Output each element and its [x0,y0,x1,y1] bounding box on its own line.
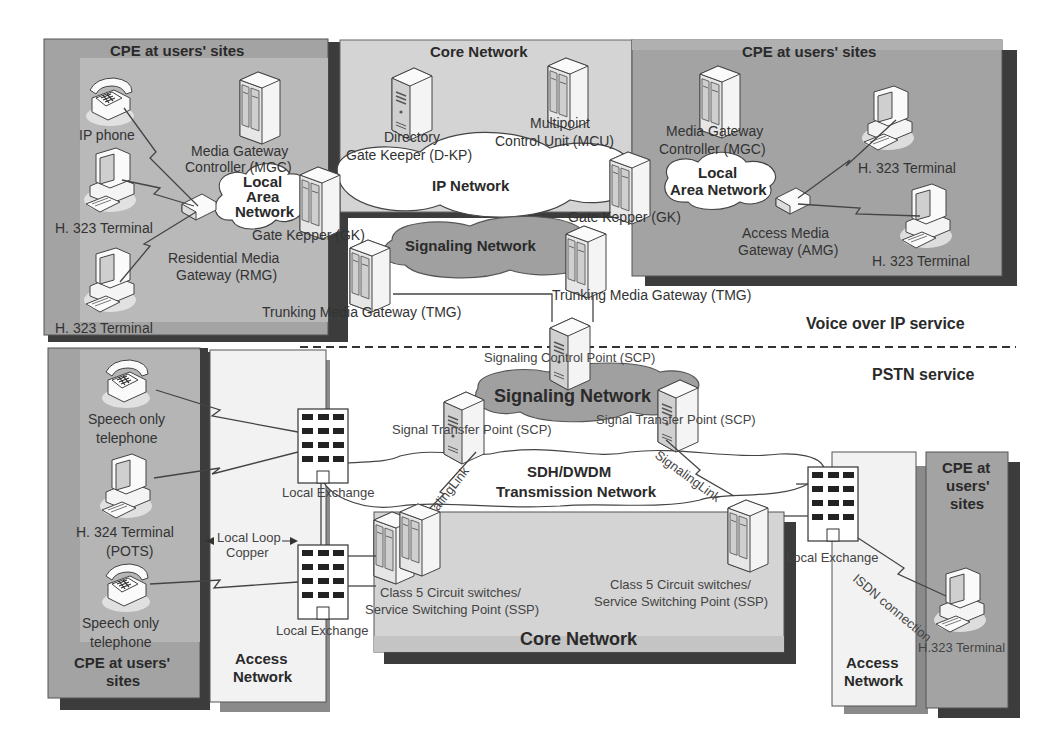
h323-terminal-left-1-label: H. 323 Terminal [55,220,153,236]
pstn-access-right-title2: Network [844,672,904,689]
stp-right-label: Signal Transfer Point (SCP) [596,412,756,427]
h324-line1: H. 324 Terminal [76,524,174,540]
pstn-section-label: PSTN service [872,366,974,383]
voip-core-title: Core Network [430,43,528,60]
h323-terminal-right-1-label: H. 323 Terminal [858,160,956,176]
rmg-line1: Residential Media [168,250,279,266]
mcu-line1: Multipoint [530,115,590,131]
pstn-cpe-right-title1: CPE at [942,459,990,476]
gk-right-label: Gate Kepper (GK) [568,209,681,225]
ip-phone-icon [86,78,134,126]
amg-line1: Access Media [742,225,829,241]
pstn-access-left-title2: Network [233,668,293,685]
pstn-access-right-title1: Access [846,654,899,671]
local-exchange-1-label: Local Exchange [282,485,375,500]
phone-1-line1: Speech only [88,411,165,427]
ssp-right-line1: Class 5 Circuit switches/ [610,577,751,592]
network-architecture-diagram: CPE at users' sites Core Network CPE at … [0,0,1056,739]
mgc-left-line1: Media Gateway [191,143,288,159]
ssp-right-server-icon [728,500,768,572]
scp-label: Signaling Control Point (SCP) [484,350,655,365]
voip-cpe-left-title: CPE at users' sites [110,42,244,59]
dkp-line2: Gate Keeper (D-KP) [346,147,472,163]
pstn-cpe-left-title1: CPE at users' [74,654,170,671]
pstn-cpe-right-title3: sites [950,495,984,512]
pstn-core-title: Core Network [520,629,638,649]
tmg-left-label: Trunking Media Gateway (TMG) [262,304,461,320]
voip-signaling-label: Signaling Network [405,237,537,254]
stp-left-label: Signal Transfer Point (SCP) [392,422,552,437]
pstn-access-left-title1: Access [235,650,288,667]
ip-network-label: IP Network [432,177,510,194]
h323-terminal-right-2-label: H. 323 Terminal [872,253,970,269]
local-exchange-icon-2 [298,545,348,619]
tmg-right-label: Trunking Media Gateway (TMG) [552,287,751,303]
h323-terminal-left-2-label: H. 323 Terminal [55,320,153,336]
phone-1-line2: telephone [96,430,158,446]
rmg-line2: Gateway (RMG) [176,267,277,283]
lan-right-line2: Area Network [670,181,767,198]
local-exchange-2-label: Local Exchange [276,623,369,638]
amg-line2: Gateway (AMG) [738,242,838,258]
local-exchange-right-label: Local Exchange [786,550,879,565]
local-exchange-right-icon [808,467,858,541]
pstn-cpe-left-title2: sites [106,672,140,689]
speech-telephone-icon-1 [102,360,150,408]
transmission-line2: Transmission Network [496,483,657,500]
mgc-server-icon [240,72,280,144]
dkp-line1: Directory [384,129,440,145]
phone-2-line2: telephone [90,634,152,650]
h324-line2: (POTS) [106,543,153,559]
mgc-right-line2: Controller (MGC) [659,141,766,157]
local-loop-line1: Local Loop [217,530,281,545]
local-exchange-icon-1 [298,409,348,483]
voip-cpe-right-title: CPE at users' sites [742,43,876,60]
mgc-right-line1: Media Gateway [666,123,763,139]
local-loop-line2: Copper [226,545,269,560]
tmg-left-server-icon [350,240,390,312]
ssp-left-line1: Class 5 Circuit switches/ [380,585,521,600]
lan-left-line3: Network [235,203,295,220]
ssp-left-server-icon-2 [400,504,440,576]
ip-phone-label: IP phone [79,127,135,143]
phone-2-line1: Speech only [82,615,159,631]
lan-right-line1: Local [698,164,737,181]
pstn-signaling-label: Signaling Network [494,386,652,406]
voip-section-label: Voice over IP service [806,315,965,332]
mcu-line2: Control Unit (MCU) [495,133,614,149]
transmission-network-cloud: SDH/DWDM Transmission Network [320,450,824,507]
ssp-left-line2: Service Switching Point (SSP) [365,602,539,617]
ssp-right-line2: Service Switching Point (SSP) [594,594,768,609]
pstn-cpe-right-title2: users' [946,477,990,494]
transmission-line1: SDH/DWDM [527,463,611,480]
gk-left-label: Gate Kepper (GK) [252,227,365,243]
mgc-left-line2: Controller (MGC) [185,159,292,175]
h323-terminal-pstn-label: H.323 Terminal [918,640,1005,655]
speech-telephone-icon-2 [102,564,150,612]
